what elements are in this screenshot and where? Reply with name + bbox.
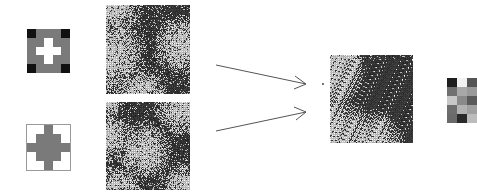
patch-cell <box>457 96 467 105</box>
patch-cell <box>447 78 457 87</box>
arrow-bottom-icon <box>216 107 306 131</box>
patch-cell <box>447 105 457 114</box>
patch-cell <box>447 87 457 96</box>
patch-cell <box>457 105 467 114</box>
patch-grid <box>447 78 477 123</box>
arrow-top-icon <box>216 65 306 89</box>
patch-cell <box>467 105 477 114</box>
patch-cell <box>457 114 467 123</box>
patch-cell <box>467 78 477 87</box>
patch-cell <box>447 96 457 105</box>
patch-cell <box>467 96 477 105</box>
arrows-layer <box>0 0 477 194</box>
patch-cell <box>447 114 457 123</box>
patch-cell <box>467 114 477 123</box>
stray-dot <box>322 83 324 85</box>
patch-cell <box>457 87 467 96</box>
patch-cell <box>457 78 467 87</box>
patch-cell <box>467 87 477 96</box>
